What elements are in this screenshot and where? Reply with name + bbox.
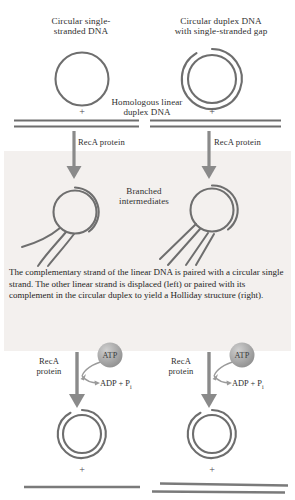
diagram-graphics (0, 0, 295, 500)
recA-label-step2-right: RecA protein (156, 357, 206, 376)
plus-bottom-left: + (68, 464, 96, 475)
product-right-outer-gapped (188, 410, 236, 458)
product-left-inner (63, 415, 101, 453)
atp-label-right: ATP (228, 351, 256, 360)
plus-bottom-right: + (198, 464, 226, 475)
title-right: Circular duplex DNA with single-stranded… (150, 16, 292, 37)
circular-duplex-inner (188, 55, 236, 103)
middle-label: Homologous linear duplex DNA (88, 97, 206, 117)
recA-label-step2-left: RecA protein (24, 357, 74, 376)
product-right-inner (193, 415, 231, 453)
atp-label-left: ATP (96, 351, 124, 360)
plus-top-right: + (198, 106, 226, 117)
recA-label-step1-right: RecA protein (214, 138, 294, 148)
product-right-linear-strand2 (152, 492, 285, 493)
adp-text-left: ADP + P (100, 379, 130, 388)
adp-label-right: ADP + Pi (232, 379, 264, 390)
figure-caption: The complementary strand of the linear D… (9, 267, 287, 302)
product-left-outer-gapped (58, 410, 106, 458)
branched-intermediates-label: Branched intermediates (104, 186, 184, 206)
recombination-diagram: Circular single- stranded DNA Circular d… (0, 0, 295, 500)
adp-text-right: ADP + P (232, 379, 262, 388)
title-left: Circular single- stranded DNA (22, 16, 140, 37)
plus-top-left: + (68, 106, 96, 117)
shaded-panel (4, 151, 291, 351)
recA-label-step1-left: RecA protein (78, 138, 158, 148)
adp-label-left: ADP + Pi (100, 379, 132, 390)
product-right-linear-strand1 (160, 484, 288, 486)
adp-subscript-left: i (130, 384, 132, 390)
adp-subscript-right: i (262, 384, 264, 390)
